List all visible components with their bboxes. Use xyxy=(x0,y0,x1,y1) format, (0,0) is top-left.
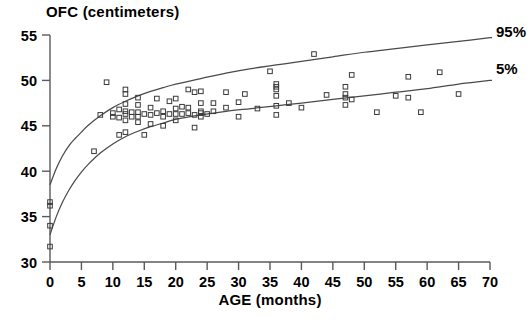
data-point xyxy=(192,125,197,130)
x-axis-tick-labels: 0510152025303540455055606570 xyxy=(46,274,498,290)
data-point xyxy=(274,113,279,118)
x-tick-label-45: 45 xyxy=(325,274,341,290)
data-point xyxy=(406,95,411,100)
data-point xyxy=(117,133,122,138)
x-tick-label-40: 40 xyxy=(293,274,309,290)
chart-axes xyxy=(42,35,490,270)
data-point xyxy=(299,105,304,110)
data-point xyxy=(167,99,172,104)
data-point xyxy=(268,69,273,74)
y-tick-label-45: 45 xyxy=(21,118,37,134)
data-point xyxy=(173,96,178,101)
data-point xyxy=(136,110,141,115)
percentile-95-curve xyxy=(50,38,490,185)
data-point xyxy=(456,92,461,97)
data-point xyxy=(236,114,241,119)
data-point xyxy=(136,114,141,119)
ofc-growth-chart: 303540455055 051015202530354045505560657… xyxy=(0,0,530,325)
data-point xyxy=(136,103,141,108)
x-axis-ticks xyxy=(50,262,490,270)
data-point xyxy=(129,110,134,115)
x-tick-label-55: 55 xyxy=(388,274,404,290)
data-point xyxy=(236,100,241,105)
data-point xyxy=(349,73,354,78)
data-point xyxy=(224,105,229,110)
data-point xyxy=(343,103,348,108)
data-point xyxy=(224,90,229,95)
x-tick-label-35: 35 xyxy=(262,274,278,290)
data-point xyxy=(393,94,398,99)
data-point xyxy=(123,92,128,97)
data-point xyxy=(104,80,109,85)
data-point xyxy=(117,107,122,112)
data-point xyxy=(186,111,191,116)
data-point xyxy=(123,87,128,92)
y-tick-label-40: 40 xyxy=(21,164,37,180)
y-tick-label-50: 50 xyxy=(21,73,37,89)
data-point xyxy=(123,130,128,135)
x-tick-label-60: 60 xyxy=(419,274,435,290)
data-point xyxy=(155,96,160,101)
data-point xyxy=(180,112,185,117)
x-tick-label-25: 25 xyxy=(199,274,215,290)
data-point xyxy=(142,133,147,138)
patient-data-points xyxy=(48,52,461,249)
data-point xyxy=(186,105,191,110)
y-tick-label-30: 30 xyxy=(21,255,37,271)
data-point xyxy=(324,93,329,98)
x-tick-label-70: 70 xyxy=(482,274,498,290)
x-tick-label-0: 0 xyxy=(46,274,54,290)
data-point xyxy=(243,92,248,97)
data-point xyxy=(161,114,166,119)
data-point xyxy=(148,113,153,118)
data-point xyxy=(211,101,216,106)
data-point xyxy=(167,112,172,117)
percentile-5-curve xyxy=(50,80,490,234)
data-point xyxy=(199,101,204,106)
data-point xyxy=(161,124,166,129)
data-point xyxy=(148,105,153,110)
data-point xyxy=(312,52,317,57)
data-point xyxy=(142,112,147,117)
data-point xyxy=(136,120,141,125)
x-tick-label-5: 5 xyxy=(77,274,85,290)
data-point xyxy=(129,114,134,119)
data-point xyxy=(192,90,197,95)
data-point xyxy=(375,110,380,115)
x-axis-title: AGE (months) xyxy=(218,291,321,308)
data-point xyxy=(406,74,411,79)
y-tick-label-55: 55 xyxy=(21,28,37,44)
x-tick-label-30: 30 xyxy=(231,274,247,290)
data-point xyxy=(274,94,279,99)
x-tick-label-15: 15 xyxy=(136,274,152,290)
y-tick-label-35: 35 xyxy=(21,209,37,225)
data-point xyxy=(92,149,97,154)
chart-title: OFC (centimeters) xyxy=(46,3,179,20)
data-point xyxy=(155,111,160,116)
data-point xyxy=(343,84,348,89)
chart-canvas: 303540455055 051015202530354045505560657… xyxy=(0,0,530,325)
data-point xyxy=(186,87,191,92)
x-tick-label-65: 65 xyxy=(451,274,467,290)
data-point xyxy=(199,89,204,94)
data-point xyxy=(117,115,122,120)
percentile-5-label: 5% xyxy=(496,60,518,77)
data-point xyxy=(123,118,128,123)
data-point xyxy=(161,109,166,114)
data-point xyxy=(419,110,424,115)
data-point xyxy=(437,70,442,75)
data-point xyxy=(173,112,178,117)
x-tick-label-50: 50 xyxy=(356,274,372,290)
y-axis-tick-labels: 303540455055 xyxy=(21,28,37,271)
x-tick-label-20: 20 xyxy=(168,274,184,290)
percentile-95-label: 95% xyxy=(496,23,526,40)
x-tick-label-10: 10 xyxy=(105,274,121,290)
data-point xyxy=(180,104,185,109)
data-point xyxy=(173,106,178,111)
